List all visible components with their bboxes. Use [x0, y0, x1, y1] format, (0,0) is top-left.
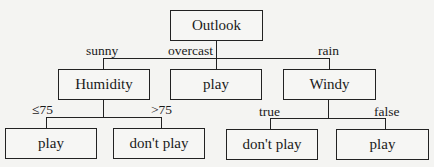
edge-humidity-trunk	[103, 100, 104, 117]
branch-label-overcast: overcast	[168, 44, 213, 58]
edge-humidity-right	[161, 117, 162, 128]
edge-to-humidity	[103, 58, 104, 69]
leaf-windy-true-dont-play: don't play	[226, 129, 318, 160]
leaf-humidity-le75-play: play	[5, 128, 97, 159]
decision-tree-diagram: Outlook sunny overcast rain Humidity pla…	[0, 0, 434, 167]
branch-label-false: false	[374, 105, 399, 119]
leaf-windy-false-play: play	[336, 129, 429, 160]
leaf-humidity-gt75-dont-play: don't play	[113, 128, 205, 159]
branch-label-gt75: >75	[151, 103, 172, 117]
branch-label-le75: ≤75	[32, 103, 53, 117]
branch-label-true: true	[259, 105, 280, 119]
edge-windy-right	[385, 118, 386, 129]
edge-to-windy	[329, 58, 330, 69]
branch-label-rain: rain	[318, 44, 339, 58]
edge-humidity-left	[46, 117, 47, 128]
node-overcast-play: play	[170, 69, 262, 100]
edge-windy-left	[270, 118, 271, 129]
edge-windy-bar	[270, 118, 386, 119]
edge-humidity-bar	[46, 117, 162, 118]
branch-label-sunny: sunny	[86, 44, 118, 58]
edge-windy-trunk	[328, 100, 329, 118]
edge-root-trunk	[216, 41, 217, 69]
node-humidity: Humidity	[58, 69, 150, 100]
node-windy: Windy	[283, 69, 376, 100]
edge-root-bar	[103, 58, 330, 59]
node-outlook: Outlook	[170, 10, 263, 41]
